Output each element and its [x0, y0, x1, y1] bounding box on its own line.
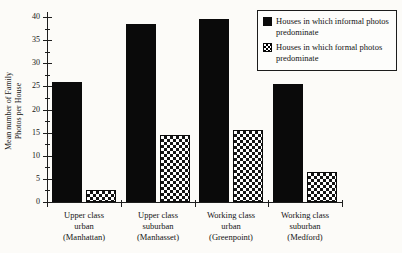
y-major-tick — [43, 17, 52, 18]
y-minor-tick — [45, 190, 50, 191]
crosshatch-swatch-icon — [263, 43, 272, 52]
bar-formal — [160, 135, 190, 202]
bar-formal — [233, 130, 263, 202]
x-tick — [47, 200, 48, 207]
x-tick — [342, 200, 343, 207]
category-label: Working class suburban (Medford) — [260, 210, 350, 243]
y-tick-label: 10 — [20, 151, 40, 161]
y-major-tick — [43, 110, 52, 111]
solid-swatch-icon — [263, 17, 272, 26]
y-minor-tick — [45, 29, 50, 30]
bar-informal — [273, 84, 303, 202]
y-minor-tick — [45, 75, 50, 76]
legend-label-informal: Houses in which informal photos predomin… — [276, 16, 393, 37]
y-minor-tick — [45, 167, 50, 168]
legend-item-informal: Houses in which informal photos predomin… — [263, 16, 393, 37]
y-major-tick — [43, 133, 52, 134]
y-tick-label: 40 — [20, 12, 40, 22]
y-major-tick — [43, 86, 52, 87]
y-tick-label: 30 — [20, 58, 40, 68]
y-tick-label: 0 — [20, 197, 40, 207]
bar-informal — [199, 19, 229, 202]
x-tick — [195, 200, 196, 207]
bar-formal — [86, 190, 116, 202]
y-tick-label: 25 — [20, 81, 40, 91]
y-minor-tick — [45, 144, 50, 145]
x-tick — [121, 200, 122, 207]
legend-item-formal: Houses in which formal photos predominat… — [263, 42, 393, 63]
legend-label-formal: Houses in which formal photos predominat… — [276, 42, 393, 63]
y-tick-label: 15 — [20, 128, 40, 138]
x-tick — [268, 200, 269, 207]
legend: Houses in which informal photos predomin… — [257, 10, 397, 71]
y-major-tick — [43, 179, 52, 180]
y-major-tick — [43, 63, 52, 64]
y-major-tick — [43, 156, 52, 157]
y-minor-tick — [45, 98, 50, 99]
y-tick-label: 5 — [20, 174, 40, 184]
y-minor-tick — [45, 121, 50, 122]
y-tick-label: 35 — [20, 35, 40, 45]
bar-informal — [126, 24, 156, 202]
y-tick-label: 20 — [20, 105, 40, 115]
y-major-tick — [43, 40, 52, 41]
y-minor-tick — [45, 52, 50, 53]
scanned-bar-chart-figure: Mean number of Family Photos per House 0… — [0, 0, 402, 253]
bar-informal — [52, 82, 82, 202]
bar-formal — [307, 172, 337, 202]
